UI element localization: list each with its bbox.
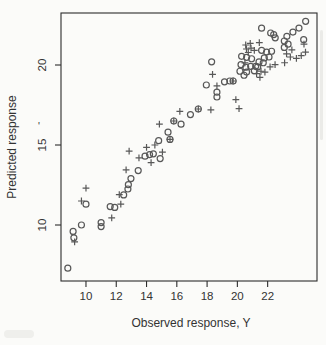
y-axis-title: Predicted response <box>5 95 19 199</box>
data-point-plus <box>302 49 309 56</box>
data-point-plus <box>214 82 221 89</box>
x-tick-label: 22 <box>261 290 274 302</box>
data-point-circle <box>70 228 76 234</box>
data-point-plus <box>232 96 239 103</box>
data-point-circle <box>259 25 265 31</box>
data-point-plus <box>209 71 216 78</box>
data-point-plus <box>256 39 263 46</box>
data-point-plus <box>136 154 143 161</box>
data-point-circle <box>284 33 290 39</box>
data-point-plus <box>176 108 183 115</box>
x-tick-label: 12 <box>110 290 123 302</box>
data-point-plus <box>117 201 124 208</box>
data-point-circle <box>125 182 131 188</box>
data-point-circle <box>128 176 134 182</box>
data-point-plus <box>281 59 288 66</box>
data-point-plus <box>207 106 214 113</box>
x-tick-label: 18 <box>201 290 214 302</box>
data-point-plus <box>236 105 243 112</box>
scatter-plot: 10121416182022101520Observed response, Y… <box>0 0 326 345</box>
data-point-circle <box>78 222 84 228</box>
x-tick-label: 16 <box>170 290 183 302</box>
data-point-plus <box>148 159 155 166</box>
data-point-plus <box>283 50 290 57</box>
scatter-plot-figure: 10121416182022101520Observed response, Y… <box>0 0 326 345</box>
data-point-plus <box>83 185 90 192</box>
data-point-plus <box>78 198 85 205</box>
data-point-circle <box>83 201 89 207</box>
data-point-circle <box>209 59 215 65</box>
data-point-plus <box>123 166 130 173</box>
data-point-circle <box>71 235 77 241</box>
data-point-circle <box>156 138 162 144</box>
data-point-plus <box>159 149 166 156</box>
data-point-circle <box>150 151 156 157</box>
data-point-circle <box>65 265 71 271</box>
x-axis-title: Observed response, Y <box>131 316 250 330</box>
data-point-plus <box>247 40 254 47</box>
y-tick-label: 20 <box>36 59 48 72</box>
data-point-plus <box>143 144 150 151</box>
plot-border <box>61 13 317 281</box>
data-point-circle <box>98 224 104 230</box>
y-tick-label: 15 <box>36 139 48 152</box>
data-point-circle <box>203 82 209 88</box>
x-tick-label: 20 <box>231 290 244 302</box>
x-tick-label: 10 <box>80 290 93 302</box>
data-point-plus <box>126 148 133 155</box>
scan-artifact-mark: ' <box>38 121 40 132</box>
data-point-plus <box>242 42 249 49</box>
x-tick-label: 14 <box>140 290 153 302</box>
data-point-plus <box>257 74 264 81</box>
data-point-plus <box>108 214 115 221</box>
y-tick-label: 10 <box>36 219 48 232</box>
data-point-circle <box>187 112 193 118</box>
data-point-circle <box>290 29 296 35</box>
data-point-circle <box>281 44 287 50</box>
data-point-plus <box>156 121 163 128</box>
data-point-circle <box>157 156 163 162</box>
data-point-circle <box>178 121 184 127</box>
data-point-circle <box>303 18 309 24</box>
data-point-plus <box>287 54 294 61</box>
data-point-circle <box>296 25 302 31</box>
data-point-circle <box>165 129 171 135</box>
data-point-circle <box>135 168 141 174</box>
data-point-circle <box>285 41 291 47</box>
data-point-plus <box>262 69 269 76</box>
data-point-plus <box>151 142 158 149</box>
